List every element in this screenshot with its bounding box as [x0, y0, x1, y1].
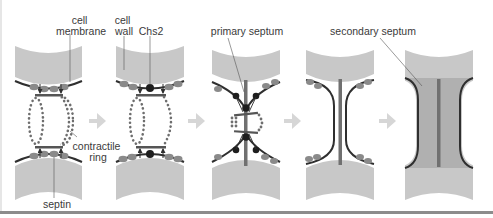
- cell-membrane-left-top: [212, 82, 245, 108]
- ring-bar-top: [35, 94, 63, 97]
- label-secondary-septum: secondary septum: [330, 25, 416, 37]
- ring-bar-bottom: [136, 146, 166, 149]
- panel-4: [305, 50, 374, 200]
- right-arrow-icon: [379, 113, 396, 129]
- step-arrow-4: [379, 113, 396, 129]
- right-arrow-icon: [284, 113, 301, 129]
- primary-septum: [339, 79, 343, 165]
- cell-membrane-left: [306, 80, 334, 164]
- contractile-ring-dots: [130, 98, 144, 144]
- label-primary-septum: primary septum: [211, 25, 284, 37]
- step-arrow-3: [284, 113, 301, 129]
- ring-bar-bottom: [35, 146, 63, 149]
- panel-2: cell wall Chs2: [114, 14, 184, 200]
- label-chs2: Chs2: [139, 25, 164, 37]
- contractile-ring-dots: [164, 97, 171, 145]
- contractile-ring-dots: [29, 98, 43, 144]
- cell-wall-bottom: [15, 158, 82, 200]
- cytokinesis-diagram: cell membrane contractile ring septin: [0, 0, 493, 218]
- chs2-dot: [146, 84, 154, 92]
- cell-wall-top: [306, 50, 374, 82]
- label-cell-wall: cell wall: [114, 14, 133, 37]
- step-arrow-2: [188, 113, 205, 129]
- panel-1: cell membrane contractile ring septin: [15, 14, 123, 210]
- chs2-dot: [146, 150, 154, 158]
- right-arrow-icon: [89, 113, 106, 129]
- cell-wall-bottom: [306, 160, 374, 200]
- cell-wall-top: [15, 46, 82, 85]
- right-arrow-icon: [188, 113, 205, 129]
- label-cell-membrane: cell membrane: [56, 14, 106, 37]
- label-septin: septin: [43, 198, 71, 210]
- cell-wall-top: [212, 50, 280, 82]
- contractile-ring-dots: [62, 97, 69, 145]
- primary-septum: [437, 79, 441, 167]
- step-arrow-1: [89, 113, 106, 129]
- ring-bar-top: [136, 94, 166, 97]
- cell-wall-bottom: [116, 158, 184, 200]
- label-contractile-ring: contractile ring: [73, 140, 124, 163]
- bottom-rule: [0, 211, 493, 214]
- panel-3: primary septum: [211, 25, 284, 200]
- cytoplasm-right: [462, 80, 475, 166]
- cell-membrane-right: [346, 80, 374, 164]
- primary-septum: [244, 80, 248, 166]
- contractile-ring-dots: [51, 97, 73, 145]
- cytoplasm-left: [403, 80, 416, 166]
